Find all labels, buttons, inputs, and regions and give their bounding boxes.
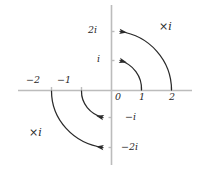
axis-label-i: i [97, 54, 100, 64]
axis-label-1: 1 [139, 92, 145, 102]
axis-label-2: 2 [169, 92, 175, 102]
axis-label-minus-i: −i [125, 112, 136, 122]
operation-label-lower-left: ×i [29, 127, 42, 138]
axis-label-minus-2i: −2i [121, 142, 138, 152]
arc-minus-1-to-minus-i [81, 91, 103, 118]
axis-label-0: 0 [115, 92, 121, 102]
axis-label-2i: 2i [88, 25, 97, 35]
complex-plane-figure: 2i i −i −2i −2 −1 0 1 2 ×i ×i [0, 0, 210, 171]
axis-label-minus-1: −1 [57, 75, 71, 85]
arc-2-to-2i [120, 32, 172, 91]
arc-minus-2-to-minus-2i [51, 91, 103, 148]
complex-plane-canvas [0, 0, 210, 171]
arc-1-to-i [120, 61, 142, 91]
axis-label-minus-2: −2 [26, 75, 40, 85]
operation-label-upper-right: ×i [159, 21, 172, 32]
